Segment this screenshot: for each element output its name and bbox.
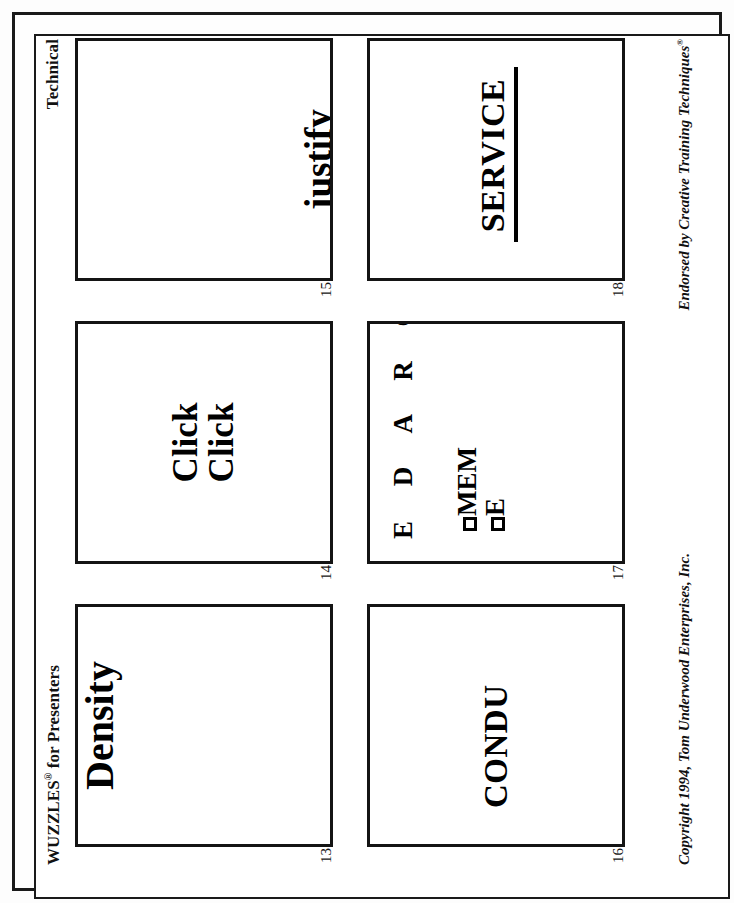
puzzle-word-click-1: Click bbox=[168, 402, 204, 482]
missing-glyph-box-icon bbox=[463, 517, 477, 531]
puzzle-box-16[interactable]: CONDU bbox=[367, 604, 625, 847]
puzzle-cell-14[interactable]: 14 Click Click bbox=[75, 321, 333, 564]
worksheet-page: WUZZLES® for Presenters Technical 13 Den… bbox=[0, 0, 734, 903]
puzzle-content-17: E D A R G MEM E bbox=[370, 324, 622, 561]
puzzle-box-15[interactable]: justify bbox=[75, 38, 333, 281]
registered-mark-icon: ® bbox=[43, 772, 54, 780]
puzzle-number-18: 18 bbox=[611, 282, 626, 297]
footer-copyright: Copyright 1994, Tom Underwood Enterprise… bbox=[676, 553, 693, 865]
header-right-title-text: Technical bbox=[43, 39, 62, 109]
puzzle-word-mem: MEM bbox=[452, 447, 482, 516]
puzzle-spaced-row-edarg: E D A R G bbox=[388, 321, 419, 539]
puzzle-content-13: Density bbox=[78, 607, 330, 844]
puzzle-word-click-2: Click bbox=[204, 402, 240, 482]
missing-glyph-box-icon bbox=[491, 517, 505, 531]
puzzle-word-condu: CONDU bbox=[478, 684, 515, 808]
footer-endorsement: Endorsed by Creative Training Techniques… bbox=[675, 39, 693, 310]
puzzle-number-14: 14 bbox=[319, 565, 334, 580]
puzzle-cell-17[interactable]: 17 E D A R G MEM E bbox=[367, 321, 625, 564]
header-left-title-text: WUZZLES bbox=[44, 780, 63, 865]
puzzle-box-14[interactable]: Click Click bbox=[75, 321, 333, 564]
puzzle-content-18: SERVICE bbox=[370, 41, 622, 278]
puzzle-word-e: E bbox=[480, 497, 510, 515]
puzzle-line-e: E bbox=[481, 497, 509, 530]
puzzle-grid: 13 Density 14 Click Click bbox=[75, 39, 655, 865]
footer-copyright-text: Copyright 1994, Tom Underwood Enterprise… bbox=[676, 553, 692, 865]
puzzle-number-17: 17 bbox=[611, 565, 626, 580]
puzzle-cell-15[interactable]: 15 justify bbox=[75, 38, 333, 281]
puzzle-content-14: Click Click bbox=[78, 324, 330, 561]
puzzle-box-17[interactable]: E D A R G MEM E bbox=[367, 321, 625, 564]
footer-endorsement-text: Endorsed by Creative Training Techniques bbox=[676, 45, 692, 310]
puzzle-word-justify: justify bbox=[302, 109, 333, 210]
registered-mark-icon: ® bbox=[675, 39, 685, 46]
puzzle-content-15: justify bbox=[78, 41, 330, 278]
puzzle-word-service: SERVICE bbox=[474, 76, 518, 241]
puzzle-content-16: CONDU bbox=[370, 607, 622, 844]
puzzle-number-16: 16 bbox=[611, 848, 626, 863]
header-left-title-suffix: for Presenters bbox=[44, 665, 63, 773]
puzzle-number-15: 15 bbox=[319, 282, 334, 297]
puzzle-cell-16[interactable]: 16 CONDU bbox=[367, 604, 625, 847]
puzzle-number-13: 13 bbox=[319, 848, 334, 863]
puzzle-box-13[interactable]: Density bbox=[75, 604, 333, 847]
puzzle-word-density: Density bbox=[80, 661, 120, 790]
header-left-title: WUZZLES® for Presenters bbox=[43, 665, 64, 865]
puzzle-box-18[interactable]: SERVICE bbox=[367, 38, 625, 281]
header-right-title: Technical bbox=[43, 39, 63, 109]
puzzle-cell-13[interactable]: 13 Density bbox=[75, 604, 333, 847]
puzzle-cell-18[interactable]: 18 SERVICE bbox=[367, 38, 625, 281]
rotated-sheet: WUZZLES® for Presenters Technical 13 Den… bbox=[41, 33, 693, 871]
puzzle-line-mem: MEM bbox=[453, 447, 481, 531]
